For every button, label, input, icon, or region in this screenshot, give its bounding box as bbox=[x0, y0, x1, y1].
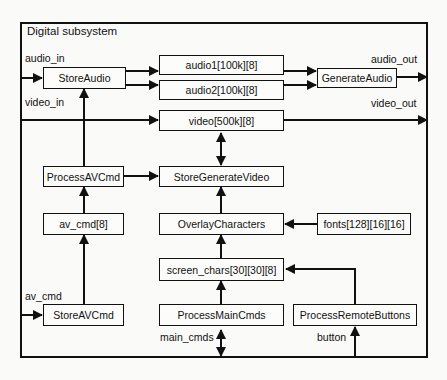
node-audio2-buffer: audio2[100k][8] bbox=[159, 80, 284, 100]
node-store-av-cmd: StoreAVCmd bbox=[43, 304, 124, 326]
signal-audio-out: audio_out bbox=[371, 53, 417, 65]
node-process-av-cmd: ProcessAVCmd bbox=[43, 166, 124, 187]
node-overlay-characters: OverlayCharacters bbox=[159, 213, 284, 235]
node-av-cmd-buffer: av_cmd[8] bbox=[43, 213, 124, 235]
node-video-buffer: video[500k][8] bbox=[159, 110, 284, 131]
node-fonts-table: fonts[128][16][16] bbox=[317, 213, 411, 235]
signal-main-cmds: main_cmds bbox=[160, 331, 214, 343]
node-generate-audio: GenerateAudio bbox=[317, 68, 397, 88]
diagram-title: Digital subsystem bbox=[27, 25, 117, 37]
node-screen-chars: screen_chars[30][30][8] bbox=[159, 258, 284, 281]
node-audio1-buffer: audio1[100k][8] bbox=[159, 55, 284, 75]
signal-audio-in: audio_in bbox=[25, 52, 65, 64]
signal-video-in: video_in bbox=[25, 96, 64, 108]
signal-button: button bbox=[317, 331, 346, 343]
signal-av-cmd: av_cmd bbox=[25, 290, 62, 302]
node-process-remote-buttons: ProcessRemoteButtons bbox=[293, 304, 417, 326]
signal-video-out: video_out bbox=[371, 97, 417, 109]
node-process-main-cmds: ProcessMainCmds bbox=[159, 304, 284, 326]
node-store-generate-video: StoreGenerateVideo bbox=[159, 166, 284, 187]
node-store-audio: StoreAudio bbox=[43, 67, 126, 89]
